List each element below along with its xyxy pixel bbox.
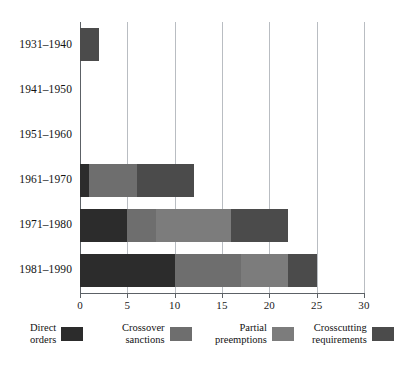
bar-segment: [80, 254, 175, 287]
bar-segment: [288, 254, 316, 287]
bar-segment: [80, 164, 89, 197]
legend-label: Directorders: [30, 322, 56, 345]
legend-label: Crosscuttingrequirements: [312, 322, 367, 345]
legend-swatch: [170, 327, 192, 341]
category-label: 1981–1990: [0, 263, 72, 275]
bar-segment: [241, 254, 288, 287]
x-tick-mark: [269, 293, 270, 298]
bar-segment: [137, 164, 194, 197]
legend-label: Crossoversanctions: [122, 322, 165, 345]
legend-item[interactable]: Partialpreemptions: [215, 322, 294, 345]
legend-swatch: [372, 327, 394, 341]
bar-segment: [231, 209, 288, 242]
gridline-15: [222, 22, 223, 293]
legend-swatch: [272, 327, 294, 341]
bar-segment: [80, 209, 127, 242]
x-tick-mark: [175, 293, 176, 298]
y-axis-line: [80, 22, 81, 293]
gridline-10: [175, 22, 176, 293]
gridline-30: [364, 22, 365, 293]
gridline-20: [269, 22, 270, 293]
x-tick-mark: [222, 293, 223, 298]
x-tick-mark: [317, 293, 318, 298]
x-tick-label: 0: [60, 299, 100, 311]
legend-item[interactable]: Crosscuttingrequirements: [312, 322, 394, 345]
x-tick-label: 10: [155, 299, 195, 311]
legend-item[interactable]: Directorders: [30, 322, 83, 345]
x-tick-label: 30: [344, 299, 384, 311]
bar-segment: [80, 28, 99, 61]
bar-segment: [156, 209, 232, 242]
x-tick-mark: [364, 293, 365, 298]
bar-segment: [175, 254, 241, 287]
category-label: 1971–1980: [0, 218, 72, 230]
x-tick-mark: [80, 293, 81, 298]
legend-label: Partialpreemptions: [215, 322, 267, 345]
legend-item[interactable]: Crossoversanctions: [122, 322, 192, 345]
bar-segment: [89, 164, 136, 197]
chart-legend: DirectordersCrossoversanctionsPartialpre…: [0, 316, 382, 364]
gridline-25: [317, 22, 318, 293]
x-tick-label: 5: [107, 299, 147, 311]
category-label: 1961–1970: [0, 173, 72, 185]
category-label: 1931–1940: [0, 38, 72, 50]
x-tick-label: 15: [202, 299, 242, 311]
category-label: 1941–1950: [0, 83, 72, 95]
category-label: 1951–1960: [0, 128, 72, 140]
plot-area: [80, 22, 364, 293]
legend-swatch: [61, 327, 83, 341]
x-tick-label: 25: [297, 299, 337, 311]
x-tick-label: 20: [249, 299, 289, 311]
x-tick-mark: [127, 293, 128, 298]
gridline-5: [127, 22, 128, 293]
bar-segment: [127, 209, 155, 242]
